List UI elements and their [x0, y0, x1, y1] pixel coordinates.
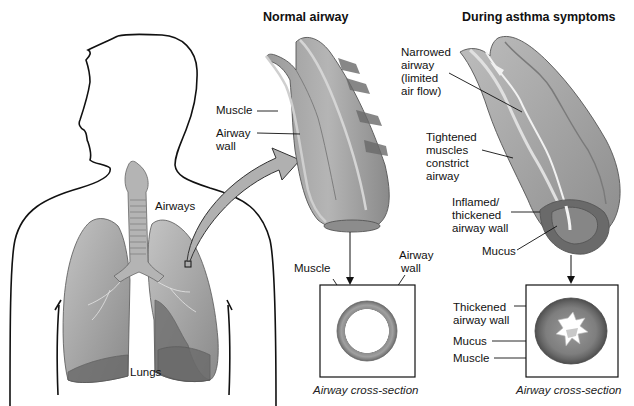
label-narrowed-3: (limited	[401, 72, 438, 85]
magnify-arrow	[187, 148, 300, 261]
label-normal-airway-wall-1: Airway	[216, 127, 251, 140]
label-inflamed-3: airway wall	[452, 222, 508, 235]
label-normal-muscle: Muscle	[216, 104, 252, 117]
label-normal-cs-airway-wall-1: Airway	[399, 249, 434, 262]
caption-normal-cross-section: Airway cross-section	[313, 384, 418, 396]
label-narrowed-1: Narrowed	[401, 46, 451, 59]
label-normal-airway-wall-2: wall	[216, 140, 236, 153]
caption-asthma-cross-section: Airway cross-section	[516, 384, 621, 396]
label-tightened-2: muscles	[426, 144, 468, 157]
normal-airway-title: Normal airway	[263, 10, 348, 24]
asthma-airway-diagram: Normal airway During asthma symptoms Air…	[0, 0, 634, 406]
label-tightened-1: Tightened	[426, 131, 477, 144]
label-normal-cs-muscle: Muscle	[294, 262, 330, 275]
normal-airway-tube	[266, 37, 389, 232]
label-cs-thickened-2: airway wall	[453, 314, 509, 327]
label-narrowed-2: airway	[401, 59, 434, 72]
label-inflamed-2: thickened	[452, 209, 501, 222]
label-tightened-3: constrict	[426, 157, 469, 170]
normal-airway-ring	[337, 301, 397, 361]
label-cs-mucus: Mucus	[453, 335, 487, 348]
asthma-airway-title: During asthma symptoms	[462, 10, 616, 24]
label-tightened-4: airway	[426, 170, 459, 183]
label-asthma-mucus: Mucus	[482, 245, 516, 258]
label-airways: Airways	[155, 200, 195, 213]
diagram-artwork	[0, 0, 634, 406]
label-cs-muscle: Muscle	[453, 352, 489, 365]
label-lungs: Lungs	[130, 366, 161, 379]
label-narrowed-4: air flow)	[401, 85, 441, 98]
label-normal-cs-airway-wall-2: wall	[401, 262, 421, 275]
label-cs-thickened-1: Thickened	[453, 301, 506, 314]
label-inflamed-1: Inflamed/	[452, 196, 499, 209]
